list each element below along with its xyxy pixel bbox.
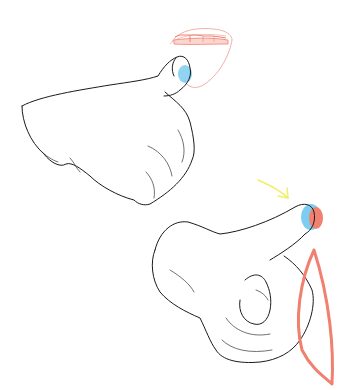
hand-illustration [0, 0, 353, 390]
bottom-hand [152, 204, 323, 363]
top-hand [22, 56, 194, 205]
contour-guide [298, 250, 332, 384]
fingertip-red-mark [309, 207, 323, 229]
arrow-annotation [258, 180, 288, 198]
